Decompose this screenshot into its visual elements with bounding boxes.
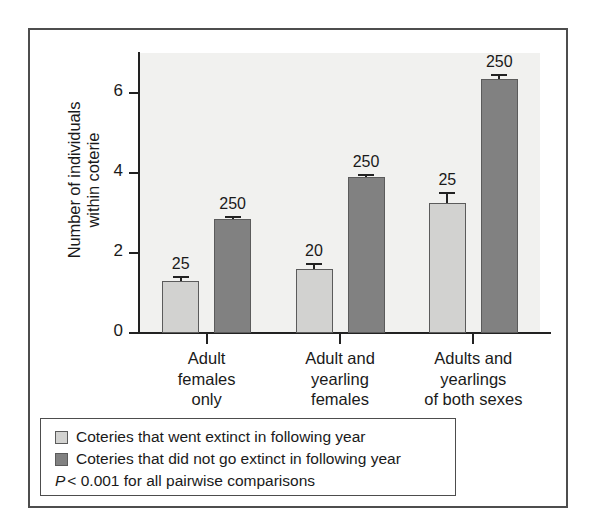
sample-size-label: 25 [151,256,211,272]
sample-size-label: 250 [203,196,263,212]
bar [348,177,385,333]
x-axis-tick [339,334,341,344]
legend-swatch-light-icon [55,431,68,444]
sample-size-label: 250 [469,54,529,70]
bar-chart: Number of individuals within coterie 024… [30,30,566,506]
sample-size-label: 20 [284,243,344,259]
figure-frame: Number of individuals within coterie 024… [28,28,568,508]
legend-label: Coteries that went extinct in following … [76,428,365,446]
error-bar-cap [306,263,322,265]
significance-note: P < 0.001 for all pairwise comparisons [55,470,455,492]
bar [214,219,251,333]
y-axis-title-line-2: within coterie [84,133,103,228]
y-axis-tick-label: 0 [114,322,123,339]
legend-swatch-dark-icon [55,453,68,466]
legend-label: Coteries that did not go extinct in foll… [76,450,401,468]
error-bar-cap [225,216,241,218]
y-axis-title: Number of individuals within coterie [56,60,112,300]
legend-item: Coteries that went extinct in following … [55,426,455,448]
legend: Coteries that went extinct in following … [40,418,456,496]
p-symbol: P [55,472,67,490]
legend-item: Coteries that did not go extinct in foll… [55,448,455,470]
error-bar-cap [173,276,189,278]
y-axis-tick: 0 [129,332,139,334]
bar [296,269,333,333]
x-axis-tick [472,334,474,344]
bar [429,203,466,333]
y-axis-tick-label: 6 [114,82,123,99]
error-bar-cap [491,74,507,76]
y-axis-tick-label: 2 [114,242,123,259]
sample-size-label: 25 [417,172,477,188]
x-axis-tick [206,334,208,344]
y-axis-tick: 4 [129,172,139,174]
error-bar-cap [439,192,455,194]
category-label-line: yearlings [393,369,553,390]
p-value-text: < 0.001 for all pairwise comparisons [67,472,315,490]
bar [162,281,199,333]
y-axis-tick: 6 [129,92,139,94]
category-label-line: of both sexes [393,389,553,410]
y-axis-title-line-1: Number of individuals [65,102,84,259]
y-axis-tick-label: 4 [114,162,123,179]
sample-size-label: 250 [336,154,396,170]
error-bar-cap [358,174,374,176]
category-label-line: Adults and [393,348,553,369]
bar [481,79,518,333]
x-axis-category-label: Adults andyearlingsof both sexes [393,348,553,410]
y-axis-tick: 2 [129,252,139,254]
y-axis-line [138,52,140,333]
